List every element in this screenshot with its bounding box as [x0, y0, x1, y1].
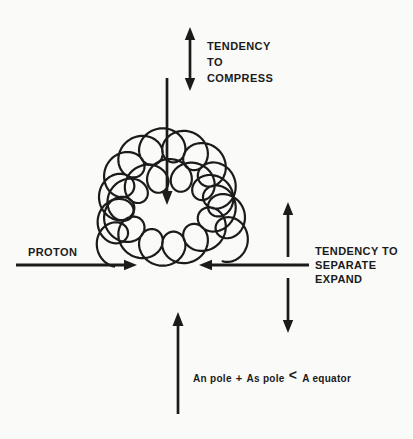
inward-compression-arrowhead-icon [162, 191, 173, 205]
plus-operator: + [236, 372, 243, 384]
equator-pointer-arrowhead-icon [199, 260, 212, 270]
formula-term-equator: A equator [302, 373, 351, 384]
tendency-to-compress-label: TENDENCY TO COMPRESS [207, 38, 273, 86]
expand-up-arrow [283, 202, 293, 257]
proton-label: PROTON [28, 245, 77, 261]
proton-pointer-arrow [16, 260, 137, 270]
upward-expansion-arrowhead-icon [173, 312, 184, 326]
expand-down-arrowhead-icon [283, 320, 293, 333]
proton-pointer-arrowhead-icon [124, 260, 137, 270]
formula-term-s-pole: As pole [247, 373, 285, 384]
figure-canvas: TENDENCY TO COMPRESS PROTON TENDENCY TO … [0, 0, 413, 439]
expand-down-arrow [283, 278, 293, 333]
tendency-to-separate-expand-label: TENDENCY TO SEPARATE EXPAND [315, 244, 398, 286]
upward-expansion-arrow [173, 312, 184, 414]
compress-arrowhead-down-icon [185, 78, 195, 91]
less-than-operator: < [289, 367, 297, 383]
compress-double-arrow [185, 27, 195, 91]
compress-arrowhead-up-icon [185, 27, 195, 40]
expand-up-arrowhead-icon [283, 202, 293, 215]
formula-term-n-pole: An pole [193, 373, 232, 384]
equator-pointer-arrow [199, 260, 309, 270]
area-inequality-formula: An pole+As pole<A equator [193, 369, 355, 385]
